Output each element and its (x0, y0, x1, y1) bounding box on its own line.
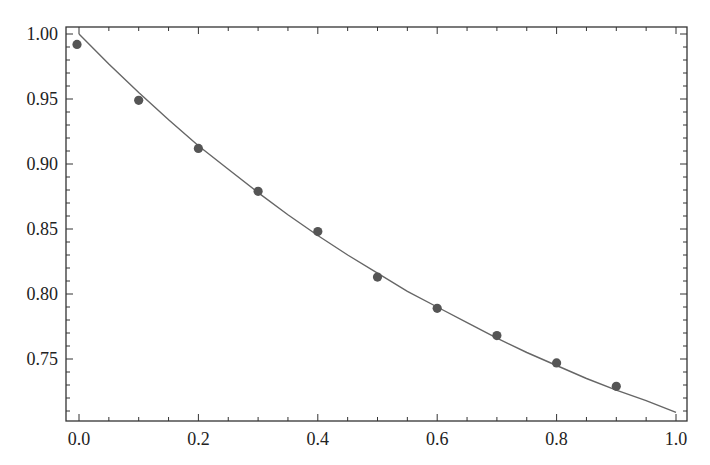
data-point (492, 331, 501, 340)
data-point (194, 144, 203, 153)
x-tick-label: 0.0 (68, 429, 91, 449)
x-tick-label: 0.6 (426, 429, 449, 449)
y-tick-label: 0.85 (27, 219, 59, 239)
x-tick-label: 1.0 (665, 429, 688, 449)
data-point (552, 358, 561, 367)
fit-curve-path (79, 34, 676, 412)
data-point (612, 382, 621, 391)
y-tick-label: 0.80 (27, 284, 59, 304)
data-point (373, 273, 382, 282)
x-tick-label: 0.8 (545, 429, 568, 449)
data-point (134, 96, 143, 105)
data-point (433, 304, 442, 313)
plot-frame (66, 27, 687, 421)
data-points (72, 40, 621, 391)
data-point (313, 227, 322, 236)
tick-labels: 0.00.20.40.60.81.00.750.800.850.900.951.… (27, 24, 688, 449)
y-tick-label: 0.90 (27, 154, 59, 174)
data-point (254, 187, 263, 196)
y-tick-label: 0.75 (27, 349, 59, 369)
x-tick-label: 0.2 (187, 429, 210, 449)
x-tick-label: 0.4 (307, 429, 330, 449)
chart-canvas: 0.00.20.40.60.81.00.750.800.850.900.951.… (0, 0, 710, 465)
data-point (72, 40, 81, 49)
fit-curve (79, 34, 676, 412)
y-tick-label: 1.00 (27, 24, 59, 44)
y-tick-label: 0.95 (27, 89, 59, 109)
axis-ticks (66, 27, 687, 421)
